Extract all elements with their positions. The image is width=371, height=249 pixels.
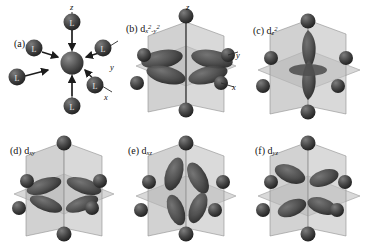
panel-f-graphic [248,124,371,249]
ligand-right-lower [208,203,222,217]
ligand-left-upper [137,48,151,62]
panel-d-caption: (d) dxy [10,145,35,156]
svg-text:L: L [93,82,98,91]
svg-text:L: L [70,19,75,28]
ligand-right-lower [331,79,345,93]
ligand-sphere-z-top: L [64,14,81,31]
metal-center-sphere [61,52,84,75]
ligand-z-bottom [301,105,316,120]
panel-b-tag: (b) [126,23,138,34]
ligand-left-lower [256,79,270,93]
panel-f-orbital-sub: yz [273,149,278,156]
ligand-sphere-upper-right-y: L [95,40,112,57]
panel-b-orbital-sup-2: 2 [156,23,159,30]
ligand-z-bottom [179,103,194,118]
panel-f-caption: (f) dyz [255,145,278,156]
panel-f-tag: (f) [255,145,265,156]
ligand-right-upper [339,51,353,65]
ligand-z-top [179,136,194,151]
plane-vertical-2 [308,142,346,236]
panel-a-caption: (a) [14,38,25,49]
ligand-left-lower [134,203,148,217]
panel-d-dxy: (d) dxy [0,124,124,249]
panel-c-caption: (c) dz2 [253,25,277,36]
svg-text:L: L [32,45,37,54]
ligand-z-top [57,136,72,151]
ligand-right-lower [85,201,99,215]
panel-f-dyz: (f) dyz [248,124,371,249]
ligand-right-lower [330,203,344,217]
ligand-spheres: L L L L L [9,14,112,115]
panel-e-graphic [124,124,248,249]
ligand-left-upper [264,175,278,189]
ligand-left-upper [264,51,278,65]
panel-d-orbital-sub: xy [29,149,35,156]
svg-text:L: L [15,74,20,83]
panel-c-orbital-sup-2: 2 [274,25,277,32]
ligand-sphere-upper-left: L [26,40,43,57]
panel-a-axis-label-x: x [104,92,108,102]
panel-e-orbital-sub: xz [147,149,152,156]
ligand-z-top [301,136,316,151]
ligand-right-upper [216,175,230,189]
ligand-right-upper [338,175,352,189]
panel-e-dxz: (e) dxz [124,124,248,249]
panel-b-axis-label-y: y [236,50,240,60]
panel-c-graphic [248,0,371,124]
panel-a-axis-label-z: z [70,2,73,12]
crystal-field-orbital-figure: (a) z y x [0,0,371,249]
svg-text:L: L [101,45,106,54]
ligand-sphere-z-bottom: L [64,98,81,115]
panel-b-caption: (b) dx2-y2 [126,23,160,34]
panel-c-dz2: (c) dz2 [248,0,371,124]
panel-c-tag: (c) [253,25,264,36]
ligand-left-lower [12,201,26,215]
panel-a-axis-label-y: y [110,62,114,72]
panel-e-caption: (e) dxz [128,145,152,156]
ligand-left-upper [20,174,34,188]
panel-b-graphic [124,0,248,124]
panel-b-axis-label-x: x [232,82,236,92]
ligand-sphere-lower-right-x: L [87,77,104,94]
ligand-right-upper [93,174,107,188]
orbital-torus-dz2 [289,64,327,76]
svg-text:L: L [70,103,75,112]
ligand-left-upper [142,175,156,189]
panel-d-tag: (d) [10,145,22,156]
panel-b-axis-label-z: z [186,2,189,12]
ligand-z-top [301,14,316,29]
ligand-left-lower [130,76,144,90]
panel-a-graphic: L L L L L [0,0,124,124]
ligand-sphere-lower-left: L [9,69,26,86]
ligand-z-bottom [57,227,72,242]
ligand-z-bottom [301,227,316,242]
ligand-left-lower [256,203,270,217]
panel-e-tag: (e) [128,145,139,156]
panel-a-octahedral-complex: (a) z y x [0,0,124,124]
panel-b-dx2y2: (b) dx2-y2 z y x [124,0,248,124]
panel-d-graphic [0,124,124,249]
ligand-z-bottom [179,227,194,242]
